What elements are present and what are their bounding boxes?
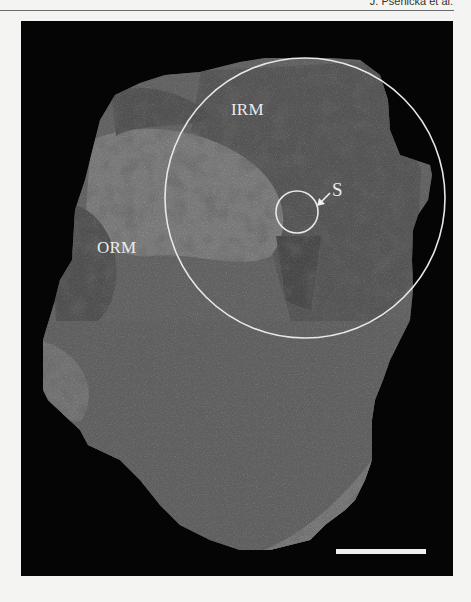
label-s: S bbox=[332, 180, 343, 199]
label-orm: ORM bbox=[97, 239, 136, 256]
scale-bar bbox=[336, 549, 426, 554]
running-header: J. Pšenička et al. bbox=[370, 0, 453, 7]
label-irm: IRM bbox=[231, 101, 264, 118]
figure-photograph: IRM ORM S bbox=[21, 21, 453, 576]
header-rule bbox=[0, 10, 454, 11]
